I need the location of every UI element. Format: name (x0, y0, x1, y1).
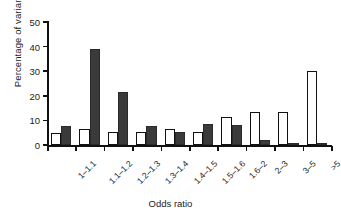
bar-group (161, 22, 189, 145)
x-axis-tick-label: 1.1–1.2 (106, 158, 133, 185)
plot-area: 01020304050 (47, 22, 331, 145)
x-axis-tick (161, 146, 163, 151)
x-axis-tick (274, 146, 276, 151)
x-axis-tick-label: 1.6–2 (246, 158, 268, 180)
x-axis-tick (331, 146, 333, 151)
x-axis-tick-label: >5 (328, 158, 341, 172)
x-axis-tick (104, 146, 106, 151)
x-axis-tick (189, 146, 191, 151)
bar-open (165, 129, 175, 145)
x-axis-tick (303, 146, 305, 151)
bar-group (189, 22, 217, 145)
bar-filled (317, 143, 327, 145)
x-axis-tick (132, 146, 134, 151)
bar-open (193, 132, 203, 145)
x-axis-tick-label: 2–3 (273, 158, 290, 175)
bar-group (104, 22, 132, 145)
x-axis-tick-label: 3–5 (301, 158, 318, 175)
bar-group (246, 22, 274, 145)
x-axis-tick (246, 146, 248, 151)
x-axis-tick (47, 146, 49, 151)
y-axis-tick-label: 10 (29, 115, 40, 126)
bar-open (307, 71, 317, 145)
x-axis-title: Odds ratio (0, 198, 341, 209)
bar-filled (288, 143, 298, 145)
bar-open (278, 112, 288, 145)
bar-filled (203, 124, 213, 145)
bar-group (132, 22, 160, 145)
bar-chart-figure: Percentage of variants 01020304050 Odds … (0, 0, 341, 216)
y-axis-tick-label: 50 (29, 17, 40, 28)
bar-group (217, 22, 245, 145)
bar-filled (146, 126, 156, 145)
bar-open (79, 129, 89, 145)
bar-open (108, 132, 118, 145)
x-axis-tick (75, 146, 77, 151)
x-axis-tick-label: 1.2–1.3 (135, 158, 162, 185)
bar-filled (90, 49, 100, 145)
bar-filled (61, 126, 71, 145)
bar-filled (232, 125, 242, 145)
x-axis-tick-label: 1.4–1.5 (192, 158, 219, 185)
x-axis-tick (217, 146, 219, 151)
bar-open (221, 117, 231, 145)
bar-group (303, 22, 331, 145)
bar-filled (175, 132, 185, 145)
y-axis-tick-label: 40 (29, 41, 40, 52)
bar-open (250, 112, 260, 145)
bar-group (274, 22, 302, 145)
y-axis-tick-label: 30 (29, 66, 40, 77)
bar-group (47, 22, 75, 145)
bar-group (75, 22, 103, 145)
x-axis-tick-label: 1.5–1.6 (220, 158, 247, 185)
x-axis-tick-label: 1.3–1.4 (163, 158, 190, 185)
bar-open (136, 132, 146, 145)
y-axis-tick-label: 20 (29, 90, 40, 101)
y-axis-tick-label: 0 (35, 140, 40, 151)
bar-filled (118, 92, 128, 145)
bar-open (51, 133, 61, 145)
bar-filled (260, 140, 270, 145)
y-axis-title: Percentage of variants (12, 0, 23, 100)
x-axis-tick-label: 1–1.1 (76, 158, 98, 180)
